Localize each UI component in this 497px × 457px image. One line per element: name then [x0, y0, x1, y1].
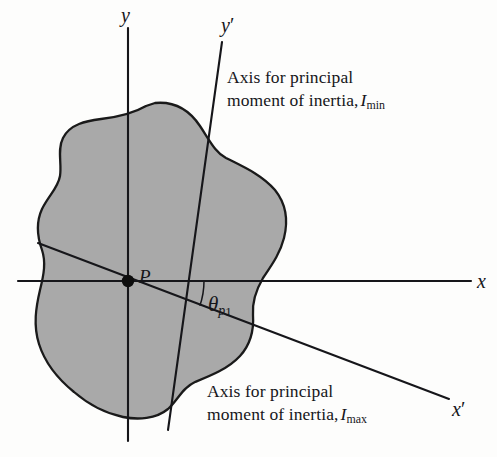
annotation-imin-line1: Axis for principal [227, 66, 385, 89]
annotation-imax-line2: moment of inertia,Imax [207, 403, 367, 428]
y-axis-label-text: y [121, 4, 130, 26]
annotation-imax-subscript: max [347, 413, 367, 427]
cross-section-shape [36, 103, 287, 419]
principal-axes-figure: y x y′ x′ P θp1 Axis for principal momen… [0, 0, 497, 457]
annotation-imax-line2-text: moment of inertia, [207, 404, 339, 424]
point-p-marker [122, 275, 134, 287]
y-axis-label: y [121, 2, 130, 29]
y-prime-axis-label: y′ [221, 12, 234, 39]
point-p-label: P [139, 264, 151, 289]
theta-symbol: θ [208, 292, 218, 316]
annotation-imax-line1: Axis for principal [207, 380, 367, 403]
y-prime-axis-label-text: y [221, 14, 230, 36]
y-prime-mark: ′ [230, 14, 234, 36]
annotation-imin-subscript: min [367, 99, 386, 113]
x-axis-label-text: x [477, 270, 486, 292]
annotation-imax-symbol: I [339, 404, 347, 424]
x-prime-axis-label: x′ [452, 396, 465, 423]
annotation-imin: Axis for principal moment of inertia,Imi… [227, 66, 385, 114]
annotation-imin-symbol: I [359, 90, 367, 110]
x-axis-label: x [477, 268, 486, 295]
point-p-label-text: P [139, 266, 151, 287]
x-prime-mark: ′ [461, 398, 465, 420]
angle-theta-p1-label: θp1 [208, 291, 232, 321]
annotation-imin-line2: moment of inertia,Imin [227, 89, 385, 114]
theta-subscript-number: 1 [225, 304, 232, 319]
annotation-imin-line2-text: moment of inertia, [227, 90, 359, 110]
annotation-imax: Axis for principal moment of inertia,Ima… [207, 380, 367, 428]
x-prime-axis-label-text: x [452, 398, 461, 420]
